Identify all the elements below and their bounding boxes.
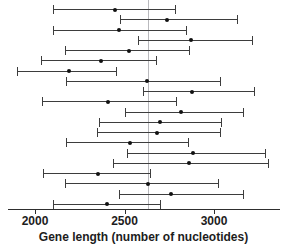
interval-cap-high	[252, 36, 253, 45]
interval-cap-high	[175, 5, 176, 14]
estimate-row	[42, 97, 178, 106]
interval-cap-low	[120, 15, 121, 24]
point-estimate-marker	[189, 38, 193, 42]
interval-cap-high	[116, 67, 117, 76]
point-estimate-marker	[145, 79, 149, 83]
estimate-row	[53, 5, 176, 14]
estimate-row	[113, 159, 270, 168]
interval-cap-low	[119, 190, 120, 199]
estimate-row	[97, 128, 222, 137]
estimate-row	[143, 87, 256, 96]
interval-cap-high	[156, 56, 157, 65]
confidence-interval-line	[66, 81, 221, 82]
x-axis-line	[8, 209, 280, 210]
interval-cap-low	[53, 5, 54, 14]
interval-cap-high	[189, 46, 190, 55]
interval-cap-high	[188, 138, 189, 147]
estimate-row	[125, 108, 244, 117]
confidence-interval-line	[120, 19, 238, 20]
confidence-interval-line	[125, 112, 244, 113]
interval-cap-low	[127, 149, 128, 158]
estimate-row	[66, 77, 221, 86]
estimate-row	[65, 46, 190, 55]
confidence-interval-line	[127, 153, 266, 154]
point-estimate-marker	[106, 100, 110, 104]
interval-cap-high	[221, 118, 222, 127]
plot-panel	[0, 0, 287, 209]
point-estimate-marker	[155, 131, 159, 135]
point-estimate-marker	[146, 182, 150, 186]
point-estimate-marker	[113, 8, 117, 12]
interval-cap-low	[17, 67, 18, 76]
interval-cap-high	[265, 149, 266, 158]
interval-cap-low	[42, 97, 43, 106]
interval-cap-low	[113, 159, 114, 168]
point-estimate-marker	[158, 120, 162, 124]
estimate-row	[119, 190, 244, 199]
point-estimate-marker	[128, 141, 132, 145]
interval-cap-low	[66, 138, 67, 147]
interval-cap-high	[220, 77, 221, 86]
interval-cap-low	[43, 169, 44, 178]
confidence-interval-line	[143, 91, 256, 92]
estimate-row	[43, 169, 152, 178]
x-tick-label: 2000	[22, 214, 49, 228]
point-estimate-marker	[67, 69, 71, 73]
interval-cap-low	[66, 77, 67, 86]
estimate-row	[17, 67, 117, 76]
x-tick-label: 3000	[201, 214, 228, 228]
estimate-row	[138, 36, 254, 45]
x-tick-label: 2500	[111, 214, 138, 228]
confidence-interval-line	[138, 40, 254, 41]
interval-cap-high	[176, 97, 177, 106]
point-estimate-marker	[96, 172, 100, 176]
interval-cap-low	[138, 36, 139, 45]
interval-cap-high	[218, 179, 219, 188]
x-axis-label: Gene length (number of nucleotides)	[0, 230, 287, 244]
confidence-interval-line	[119, 194, 244, 195]
interval-cap-low	[143, 87, 144, 96]
interval-cap-high	[186, 26, 187, 35]
interval-cap-low	[65, 46, 66, 55]
interval-cap-low	[65, 179, 66, 188]
interval-cap-high	[243, 190, 244, 199]
confidence-interval-line	[65, 183, 219, 184]
interval-cap-low	[97, 128, 98, 137]
point-estimate-marker	[105, 202, 109, 206]
interval-cap-high	[237, 15, 238, 24]
point-estimate-marker	[117, 28, 121, 32]
point-estimate-marker	[127, 49, 131, 53]
estimate-row	[99, 118, 222, 127]
interval-cap-low	[125, 108, 126, 117]
interval-cap-low	[99, 118, 100, 127]
interval-cap-high	[150, 169, 151, 178]
confidence-interval-line	[113, 163, 270, 164]
interval-cap-high	[160, 200, 161, 209]
point-estimate-marker	[165, 18, 169, 22]
interval-cap-low	[41, 56, 42, 65]
point-estimate-marker	[191, 151, 195, 155]
point-estimate-marker	[99, 59, 103, 63]
point-estimate-marker	[187, 161, 191, 165]
estimate-row	[41, 56, 157, 65]
point-estimate-marker	[169, 192, 173, 196]
estimate-row	[53, 26, 187, 35]
point-estimate-marker	[179, 110, 183, 114]
interval-cap-high	[268, 159, 269, 168]
estimate-row	[53, 200, 161, 209]
estimate-row	[66, 138, 189, 147]
interval-cap-high	[243, 108, 244, 117]
interval-cap-high	[220, 128, 221, 137]
point-estimate-marker	[190, 90, 194, 94]
estimate-row	[65, 179, 219, 188]
estimate-row	[120, 15, 238, 24]
interval-cap-high	[254, 87, 255, 96]
interval-cap-low	[53, 200, 54, 209]
interval-cap-low	[53, 26, 54, 35]
estimate-row	[127, 149, 266, 158]
